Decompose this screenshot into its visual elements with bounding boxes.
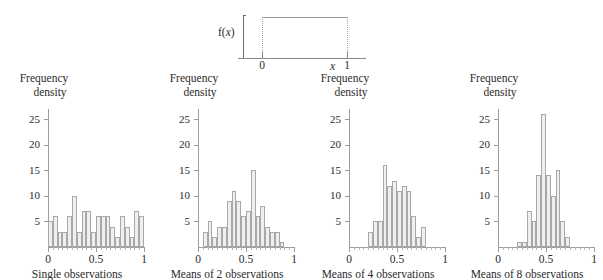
histogram-bars bbox=[498, 109, 594, 247]
uniform-density-top-line bbox=[262, 17, 347, 18]
x-axis-minor-tick bbox=[53, 247, 54, 250]
x-axis-minor-tick bbox=[222, 247, 223, 250]
x-axis-minor-tick bbox=[584, 247, 585, 250]
y-axis-tick-label: 5 bbox=[16, 216, 40, 227]
x-axis-tick-label: 0 bbox=[33, 253, 63, 265]
x-axis-minor-tick bbox=[416, 247, 417, 250]
x-axis-tick-label: 0 bbox=[183, 253, 213, 265]
x-axis-minor-tick bbox=[86, 247, 87, 250]
x-axis-minor-tick bbox=[284, 247, 285, 250]
parent-xtick-0 bbox=[262, 52, 263, 59]
x-axis-minor-tick bbox=[67, 247, 68, 250]
density-height-bracket bbox=[243, 15, 244, 59]
histogram-panel-means-of-4: Frequencydensity51015202500.51Means of 4… bbox=[303, 72, 453, 277]
parent-x-variable-label: x bbox=[330, 60, 335, 72]
x-axis-tick bbox=[397, 247, 398, 252]
x-axis-minor-tick bbox=[378, 247, 379, 250]
y-axis-tick-label: 20 bbox=[317, 139, 341, 150]
x-axis-minor-tick bbox=[589, 247, 590, 250]
y-axis-tick-label: 10 bbox=[166, 190, 190, 201]
plot-area: 51015202500.51 bbox=[152, 72, 302, 277]
parent-xtick-1 bbox=[347, 52, 348, 59]
histogram-panel-means-of-8: Frequencydensity51015202500.51Means of 8… bbox=[452, 72, 602, 277]
histogram-panel-single-observations: Frequencydensity51015202500.51Single obs… bbox=[2, 72, 152, 277]
x-axis-minor-tick bbox=[134, 247, 135, 250]
x-axis-tick-label: 0 bbox=[334, 253, 364, 265]
histogram-panel-means-of-2: Frequencydensity51015202500.51Means of 2… bbox=[152, 72, 302, 277]
y-axis-tick-label: 15 bbox=[166, 165, 190, 176]
x-axis-minor-tick bbox=[232, 247, 233, 250]
x-axis-tick bbox=[546, 247, 547, 252]
y-axis-tick-label: 25 bbox=[466, 114, 490, 125]
x-axis-minor-tick bbox=[91, 247, 92, 250]
x-axis-minor-tick bbox=[575, 247, 576, 250]
panel-caption: Means of 4 observations bbox=[303, 268, 453, 280]
y-axis-tick-label: 10 bbox=[317, 190, 341, 201]
x-axis-minor-tick bbox=[77, 247, 78, 250]
x-axis-minor-tick bbox=[512, 247, 513, 250]
x-axis-minor-tick bbox=[101, 247, 102, 250]
y-axis-tick-label: 15 bbox=[317, 165, 341, 176]
x-axis-minor-tick bbox=[256, 247, 257, 250]
x-axis-minor-tick bbox=[125, 247, 126, 250]
x-axis-minor-tick bbox=[517, 247, 518, 250]
x-axis-minor-tick bbox=[503, 247, 504, 250]
histogram-bars bbox=[349, 109, 445, 247]
x-axis-minor-tick bbox=[289, 247, 290, 250]
x-axis-tick bbox=[198, 247, 199, 252]
x-axis-tick bbox=[144, 247, 145, 252]
x-axis-tick-label: 0.5 bbox=[231, 253, 261, 265]
x-axis-minor-tick bbox=[110, 247, 111, 250]
x-axis-minor-tick bbox=[58, 247, 59, 250]
histogram-bar bbox=[421, 227, 426, 247]
panel-caption: Means of 8 observations bbox=[452, 268, 602, 280]
x-axis-minor-tick bbox=[82, 247, 83, 250]
x-axis-minor-tick bbox=[139, 247, 140, 250]
y-axis-tick-label: 20 bbox=[16, 139, 40, 150]
x-axis-minor-tick bbox=[251, 247, 252, 250]
x-axis-minor-tick bbox=[359, 247, 360, 250]
x-axis-minor-tick bbox=[115, 247, 116, 250]
x-axis-tick bbox=[294, 247, 295, 252]
y-axis-tick-label: 5 bbox=[317, 216, 341, 227]
y-axis-tick-label: 15 bbox=[16, 165, 40, 176]
x-axis-tick bbox=[246, 247, 247, 252]
x-axis-minor-tick bbox=[536, 247, 537, 250]
x-axis-tick-label: 0 bbox=[483, 253, 513, 265]
y-axis-tick-label: 10 bbox=[466, 190, 490, 201]
x-axis-minor-tick bbox=[280, 247, 281, 250]
histogram-bar bbox=[139, 216, 144, 247]
x-axis-minor-tick bbox=[275, 247, 276, 250]
x-axis-minor-tick bbox=[435, 247, 436, 250]
x-axis-minor-tick bbox=[241, 247, 242, 250]
x-axis-tick bbox=[96, 247, 97, 252]
x-axis-minor-tick bbox=[421, 247, 422, 250]
histogram-bars bbox=[198, 109, 294, 247]
x-axis-minor-tick bbox=[387, 247, 388, 250]
x-axis-minor-tick bbox=[392, 247, 393, 250]
x-axis-tick bbox=[594, 247, 595, 252]
x-axis-tick-label: 0.5 bbox=[81, 253, 111, 265]
x-axis-minor-tick bbox=[556, 247, 557, 250]
x-axis-tick-label: 0.5 bbox=[531, 253, 561, 265]
plot-area: 51015202500.51 bbox=[303, 72, 453, 277]
x-axis-minor-tick bbox=[130, 247, 131, 250]
x-axis-minor-tick bbox=[106, 247, 107, 250]
x-axis-tick bbox=[445, 247, 446, 252]
x-axis-minor-tick bbox=[354, 247, 355, 250]
x-axis-minor-tick bbox=[270, 247, 271, 250]
histogram-bars bbox=[48, 109, 144, 247]
x-axis-minor-tick bbox=[508, 247, 509, 250]
x-axis-minor-tick bbox=[426, 247, 427, 250]
y-axis-tick-label: 15 bbox=[466, 165, 490, 176]
y-axis-tick-label: 5 bbox=[466, 216, 490, 227]
x-axis-minor-tick bbox=[236, 247, 237, 250]
x-axis-minor-tick bbox=[431, 247, 432, 250]
x-axis-minor-tick bbox=[120, 247, 121, 250]
y-axis-tick-label: 5 bbox=[166, 216, 190, 227]
x-axis-minor-tick bbox=[522, 247, 523, 250]
x-axis-minor-tick bbox=[203, 247, 204, 250]
x-axis-minor-tick bbox=[260, 247, 261, 250]
histogram-bar bbox=[280, 242, 285, 247]
x-axis-minor-tick bbox=[541, 247, 542, 250]
